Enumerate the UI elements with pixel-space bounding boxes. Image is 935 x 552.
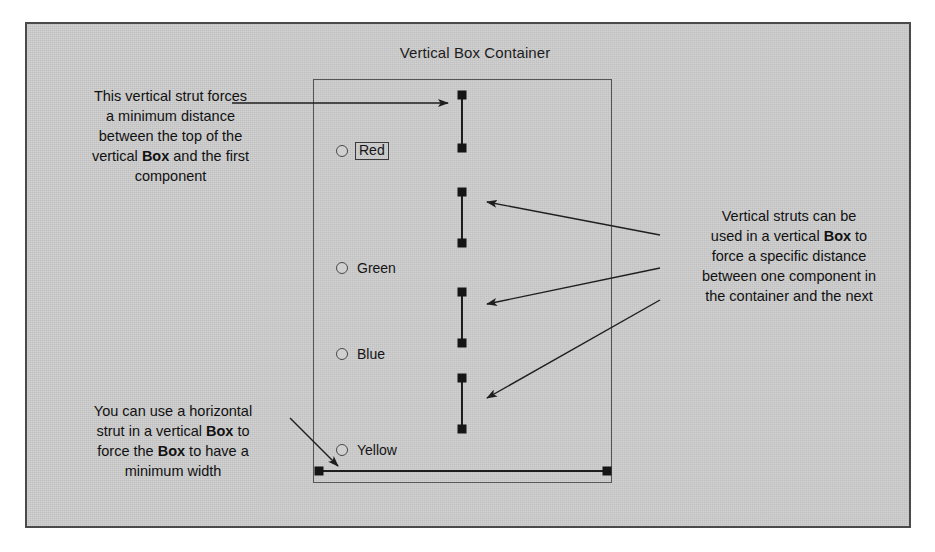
annotation-right-line-4: between one component in: [664, 266, 914, 286]
annotation-right-line-5: the container and the next: [664, 286, 914, 306]
annotation-top-left-line-1: This vertical strut forces: [38, 86, 303, 106]
annotation-right-line-2: used in a vertical Box to: [664, 226, 914, 246]
radio-row-red[interactable]: Red: [336, 142, 389, 160]
annotation-top-left: This vertical strut forces a minimum dis…: [38, 86, 303, 186]
annotation-top-left-line-4b: and the first: [169, 148, 249, 164]
annotation-bottom-left-line-2a: strut in a vertical: [96, 423, 206, 439]
annotation-top-left-line-4: vertical Box and the first: [38, 146, 303, 166]
radio-label-green[interactable]: Green: [357, 260, 396, 276]
annotation-bottom-left-line-1: You can use a horizontal: [38, 401, 308, 421]
radio-button-blue-icon[interactable]: [336, 348, 348, 360]
box-container-title: Vertical Box Container: [310, 44, 640, 61]
annotation-bottom-left-line-2: strut in a vertical Box to: [38, 421, 308, 441]
annotation-bottom-left-line-3a: force the: [97, 443, 157, 459]
figure-page: Vertical Box Container Red Green Blue Ye…: [0, 0, 935, 552]
annotation-bottom-left-line-3: force the Box to have a: [38, 441, 308, 461]
annotation-bottom-left: You can use a horizontal strut in a vert…: [38, 401, 308, 481]
radio-button-yellow-icon[interactable]: [336, 444, 348, 456]
vertical-box-container: Red Green Blue Yellow: [313, 79, 612, 483]
annotation-bottom-left-line-2-bold: Box: [206, 423, 233, 439]
radio-row-green[interactable]: Green: [336, 260, 396, 276]
annotation-right-line-2-bold: Box: [824, 228, 851, 244]
radio-label-red[interactable]: Red: [355, 142, 389, 160]
annotation-right-line-1: Vertical struts can be: [664, 206, 914, 226]
annotation-bottom-left-line-3b: to have a: [185, 443, 249, 459]
annotation-bottom-left-line-2b: to: [233, 423, 249, 439]
annotation-top-left-line-4a: vertical: [92, 148, 142, 164]
radio-row-yellow[interactable]: Yellow: [336, 442, 397, 458]
radio-label-blue[interactable]: Blue: [357, 346, 385, 362]
annotation-right-line-3: force a specific distance: [664, 246, 914, 266]
annotation-bottom-left-line-3-bold: Box: [158, 443, 185, 459]
radio-button-green-icon[interactable]: [336, 262, 348, 274]
annotation-top-left-line-2: a minimum distance: [38, 106, 303, 126]
annotation-right-line-2b: to: [851, 228, 867, 244]
annotation-top-left-line-4-bold: Box: [142, 148, 169, 164]
radio-label-yellow[interactable]: Yellow: [357, 442, 397, 458]
annotation-top-left-line-3: between the top of the: [38, 126, 303, 146]
radio-row-blue[interactable]: Blue: [336, 346, 385, 362]
annotation-bottom-left-line-4: minimum width: [38, 461, 308, 481]
annotation-right: Vertical struts can be used in a vertica…: [664, 206, 914, 306]
annotation-top-left-line-5: component: [38, 166, 303, 186]
radio-button-red-icon[interactable]: [336, 145, 348, 157]
annotation-right-line-2a: used in a vertical: [711, 228, 824, 244]
